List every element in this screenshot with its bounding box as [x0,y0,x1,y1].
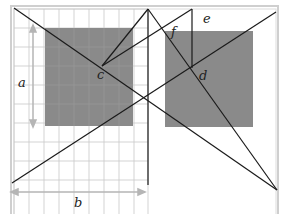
label-a: a [18,75,26,90]
label-e: e [203,11,211,26]
label-d: d [199,68,207,83]
right-gray-panel [165,31,253,127]
dimension-a-arrow [30,25,36,127]
label-c: c [97,67,105,82]
diagram-canvas: a b c d e f [0,0,286,214]
label-b: b [74,195,82,210]
